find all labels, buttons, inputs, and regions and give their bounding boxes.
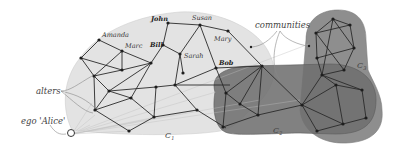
alter-label-marc: Marc (124, 42, 143, 50)
alter-label-amanda: Amanda (101, 31, 129, 39)
alters-annotation: alters (36, 86, 61, 96)
ego-annotation: ego 'Alice' (21, 116, 65, 126)
alter-label-john: John (149, 15, 168, 23)
alter-label-susan: Susan (192, 14, 212, 22)
communities-annotation: communities (255, 20, 311, 30)
alter-label-bob: Bob (218, 59, 234, 67)
alter-label-bill: Bill (149, 41, 163, 49)
ego-node (68, 130, 75, 137)
alter-label-sarah: Sarah (184, 52, 204, 60)
ego-network-diagram: Amanda Marc John Bill Susan Sarah Mary B… (0, 0, 406, 149)
alter-label-mary: Mary (213, 35, 232, 43)
community-c2-hull (214, 64, 376, 134)
